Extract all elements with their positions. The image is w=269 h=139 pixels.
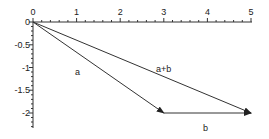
vector-b-label: b xyxy=(203,123,208,133)
x-tick-label: 0 xyxy=(30,7,35,17)
y-tick-label: -1.5 xyxy=(14,85,30,95)
vector-diagram: 0 1 2 3 4 5 0 -0.5 -1 -1.5 -2 a b a+b xyxy=(0,0,269,139)
y-tick-label: -2 xyxy=(22,108,30,118)
vector-a-label: a xyxy=(75,67,80,77)
x-tick-label: 1 xyxy=(74,7,79,17)
vector-a-plus-b-arrow xyxy=(33,22,251,113)
y-tick-label: -0.5 xyxy=(14,40,30,50)
vector-a-arrow xyxy=(33,22,164,113)
vector-a-plus-b-label: a+b xyxy=(156,64,171,74)
x-tick-label: 3 xyxy=(161,7,166,17)
x-tick-label: 4 xyxy=(205,7,210,17)
x-tick-label: 2 xyxy=(118,7,123,17)
x-minor-ticks xyxy=(33,18,251,22)
y-tick-label: -1 xyxy=(22,63,30,73)
y-tick-label: 0 xyxy=(25,17,30,27)
x-tick-label: 5 xyxy=(248,7,253,17)
x-axis xyxy=(33,18,252,22)
